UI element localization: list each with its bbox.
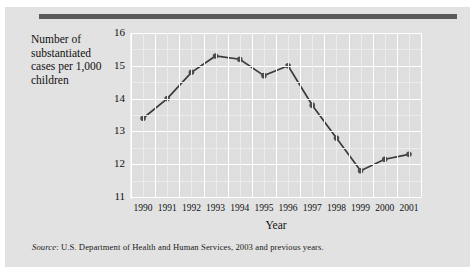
gridline-v-major bbox=[300, 33, 301, 197]
gridline-v-major bbox=[155, 33, 156, 197]
y-tick-label: 15 bbox=[101, 59, 125, 71]
gridline-v-minor bbox=[216, 33, 217, 197]
x-tick-label: 2001 bbox=[389, 203, 429, 213]
gridline-v-major bbox=[131, 33, 132, 197]
gridline-v-minor bbox=[409, 33, 410, 197]
figure-panel: Number of substantiated cases per 1,000 … bbox=[5, 7, 470, 267]
gridline-v-minor bbox=[264, 33, 265, 197]
source-text: : U.S. Department of Health and Human Se… bbox=[56, 242, 324, 252]
gridline-v-minor bbox=[312, 33, 313, 197]
x-axis-title: Year bbox=[131, 219, 421, 231]
gridline-v-major bbox=[349, 33, 350, 197]
gridline-v-major bbox=[204, 33, 205, 197]
gridline-v-minor bbox=[240, 33, 241, 197]
gridline-v-major bbox=[179, 33, 180, 197]
gridline-v-minor bbox=[167, 33, 168, 197]
gridline-v-major bbox=[228, 33, 229, 197]
source-prefix: Source bbox=[32, 242, 56, 252]
gridline-v-major bbox=[397, 33, 398, 197]
source-note: Source: U.S. Department of Health and Hu… bbox=[32, 242, 324, 252]
gridline-v-major bbox=[252, 33, 253, 197]
gridline-v-minor bbox=[288, 33, 289, 197]
top-rule bbox=[39, 14, 457, 19]
gridline-v-minor bbox=[191, 33, 192, 197]
y-tick-label: 14 bbox=[101, 92, 125, 104]
gridline-v-major bbox=[276, 33, 277, 197]
gridline-v-major bbox=[373, 33, 374, 197]
gridline-v-minor bbox=[385, 33, 386, 197]
gridline-h-major bbox=[131, 197, 421, 198]
y-tick-label: 13 bbox=[101, 124, 125, 136]
gridline-v-minor bbox=[143, 33, 144, 197]
gridline-v-major bbox=[324, 33, 325, 197]
y-tick-label: 16 bbox=[101, 26, 125, 38]
gridline-v-minor bbox=[336, 33, 337, 197]
y-tick-label: 12 bbox=[101, 157, 125, 169]
gridline-v-minor bbox=[361, 33, 362, 197]
gridline-v-major bbox=[421, 33, 422, 197]
plot-area bbox=[131, 33, 421, 197]
y-tick-label: 11 bbox=[101, 190, 125, 202]
